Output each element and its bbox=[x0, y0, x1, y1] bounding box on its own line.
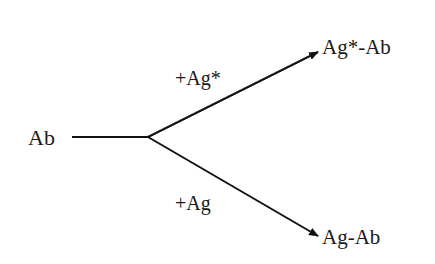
upper-reagent-label: +Ag* bbox=[175, 67, 221, 90]
source-label: Ab bbox=[28, 125, 55, 150]
reaction-diagram: Ab +Ag* +Ag Ag*-Ab Ag-Ab bbox=[0, 0, 435, 264]
upper-product-label: Ag*-Ab bbox=[322, 35, 391, 59]
lower-reagent-label: +Ag bbox=[175, 192, 211, 215]
upper-arrow bbox=[148, 52, 318, 137]
lower-product-label: Ag-Ab bbox=[322, 225, 380, 249]
lower-arrow bbox=[148, 137, 318, 236]
